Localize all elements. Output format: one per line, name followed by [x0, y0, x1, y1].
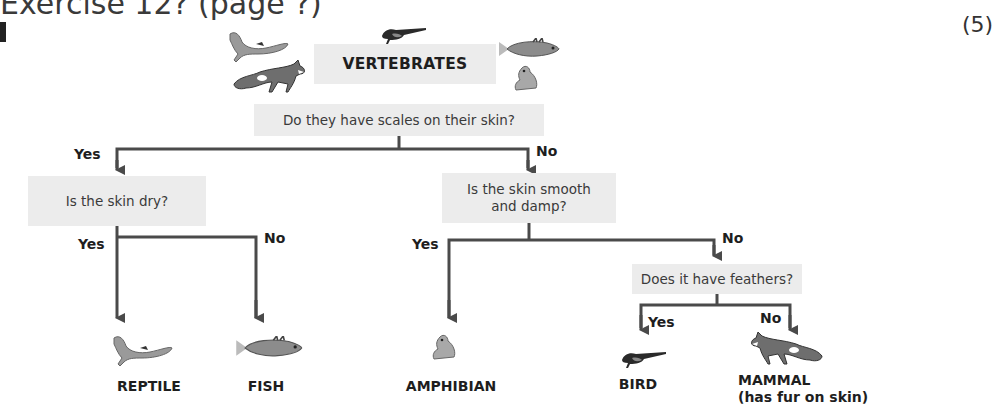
fish-leaf-icon	[232, 336, 306, 360]
label-smooth-yes: Yes	[412, 236, 439, 252]
label-feathers-no: No	[760, 310, 781, 326]
label-feathers-yes: Yes	[648, 314, 675, 330]
root-vertebrates-box: VERTEBRATES	[314, 44, 496, 84]
label-scales-yes: Yes	[74, 146, 101, 162]
reptile-lizard-icon	[110, 334, 176, 368]
leaf-mammal: MAMMAL	[738, 372, 810, 388]
question-smooth-line2: and damp?	[491, 198, 566, 215]
question-smooth-damp-box: Is the skin smooth and damp?	[442, 173, 616, 223]
label-dry-yes: Yes	[78, 236, 105, 252]
leaf-fish: FISH	[236, 378, 296, 394]
question-dry-box: Is the skin dry?	[28, 176, 206, 226]
leaf-amphibian: AMPHIBIAN	[396, 378, 506, 394]
bird-leaf-icon	[620, 350, 668, 370]
frog-icon	[512, 64, 540, 92]
fox-icon	[232, 58, 308, 94]
fish-icon	[497, 38, 561, 60]
question-smooth-line1: Is the skin smooth	[467, 181, 591, 198]
bird-icon	[380, 26, 428, 46]
leaf-bird: BIRD	[608, 376, 668, 392]
question-feathers-box: Does it have feathers?	[632, 264, 802, 294]
label-scales-no: No	[536, 143, 557, 159]
leaf-reptile: REPTILE	[104, 378, 194, 394]
question-scales-box: Do they have scales on their skin?	[254, 104, 544, 136]
mammal-fox-icon	[748, 330, 824, 366]
label-dry-no: No	[264, 230, 285, 246]
amphibian-frog-icon	[430, 332, 458, 362]
leaf-mammal-note: (has fur on skin)	[738, 389, 868, 405]
label-smooth-no: No	[722, 230, 743, 246]
